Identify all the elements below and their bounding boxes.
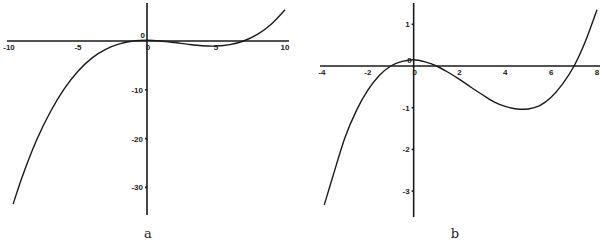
panel-a-series-line: [13, 10, 285, 204]
panel-b-x-tick-label: -2: [364, 68, 372, 77]
panel-a-y-tick-label: -20: [131, 135, 143, 144]
panel-b-x-tick-label: 6: [549, 68, 554, 77]
panel-a-x-tick-label: -5: [74, 43, 82, 52]
panel-a-x-tick-label: 5: [214, 43, 219, 52]
panel-b-y-tick-label: -3: [403, 187, 411, 196]
panel-a-label: a: [144, 226, 152, 241]
panel-a-x-tick-label: 0: [146, 43, 151, 52]
panel-a-y-tick-label: 0: [141, 31, 146, 40]
panel-b-x-tick-label: 8: [595, 68, 600, 77]
panel-a-x-tick-label: -10: [3, 43, 15, 52]
panel-b-y-tick-label: -1: [403, 104, 411, 113]
panel-b-series-line: [324, 10, 597, 205]
panel-b-y-tick-label: -2: [403, 145, 411, 154]
panel-a-x-tick-label: 10: [281, 43, 290, 52]
panel-b-label: b: [451, 226, 459, 241]
panel-b-x-tick-label: -4: [318, 68, 326, 77]
panel-b-x-tick-label: 0: [412, 68, 417, 77]
panel-b-x-tick-label: 2: [457, 68, 462, 77]
panel-b-y-tick-label: 1: [405, 20, 410, 29]
figure: -10-505100-10-20-30a-4-20246810-1-2-3b: [0, 0, 601, 241]
panel-a-y-tick-label: -10: [131, 86, 143, 95]
panel-a-y-tick-label: -30: [131, 183, 143, 192]
panel-b-x-tick-label: 4: [503, 68, 508, 77]
